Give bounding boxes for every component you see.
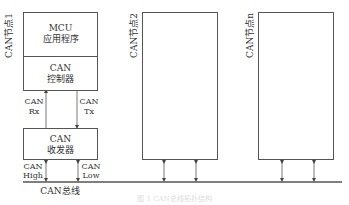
transceiver-can-label: CAN <box>24 134 97 144</box>
controller-can-label: CAN <box>24 63 97 73</box>
noden-block <box>258 12 334 160</box>
controller-label: 控制器 <box>24 74 97 84</box>
high-label-can: CAN <box>22 162 44 171</box>
low-label: Low <box>80 171 102 180</box>
low-label-can: CAN <box>80 162 102 171</box>
node2-block <box>142 12 218 160</box>
tx-label: Tx <box>79 107 99 116</box>
mcu-app-block: MCU 应用程序 <box>23 12 98 57</box>
mcu-label: MCU <box>24 23 97 33</box>
tx-label-can: CAN <box>79 97 99 106</box>
can-transceiver-block: CAN 收发器 <box>23 128 98 160</box>
rx-label: Rx <box>24 107 44 116</box>
app-label: 应用程序 <box>24 34 97 44</box>
figure-caption: 图 1 CAN总线拓扑结构 <box>0 193 349 203</box>
can-controller-block: CAN 控制器 <box>23 56 98 91</box>
node1-label: CAN节点1 <box>4 13 14 58</box>
noden-label: CAN节点n <box>245 13 255 58</box>
high-label: High <box>22 171 44 180</box>
rx-label-can: CAN <box>24 97 44 106</box>
node2-label: CAN节点2 <box>129 13 139 58</box>
transceiver-label: 收发器 <box>24 145 97 155</box>
